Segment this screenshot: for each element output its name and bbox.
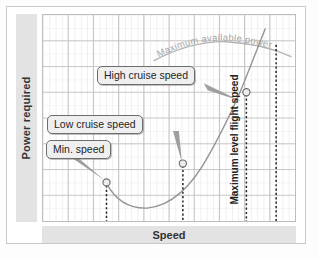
- callout-high-cruise-speed[interactable]: High cruise speed: [97, 66, 195, 85]
- callout-tail-min-speed: [69, 156, 104, 180]
- callout-tail-high-cruise-speed: [204, 83, 242, 101]
- marker-high-cruise-speed: [243, 89, 250, 96]
- callout-low-cruise-speed[interactable]: Low cruise speed: [47, 115, 143, 134]
- label-maximum-available-power: Maximum available power: [155, 32, 274, 59]
- y-axis-title-text: Power required: [21, 77, 33, 160]
- callout-min-speed[interactable]: Min. speed: [46, 140, 111, 159]
- marker-min-speed: [103, 179, 110, 186]
- figure-power-required-vs-speed: Power required Speed: [0, 0, 318, 260]
- callout-tail-low-cruise-speed: [173, 131, 182, 163]
- marker-low-cruise-speed: [179, 160, 186, 167]
- y-axis-title: Power required: [16, 14, 37, 222]
- x-axis-title: Speed: [42, 226, 296, 243]
